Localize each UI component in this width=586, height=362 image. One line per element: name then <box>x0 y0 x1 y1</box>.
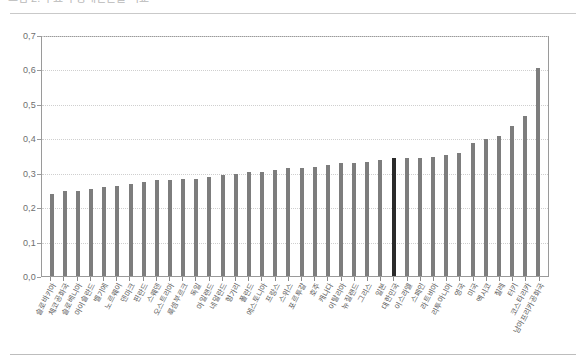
bar-slot <box>163 37 176 276</box>
bar-slot <box>505 37 518 276</box>
x-axis-label-slot: 뉴질랜드 <box>348 281 361 354</box>
x-axis-label-slot: 슬로베니아 <box>70 281 83 354</box>
x-axis-label-slot: 포르투갈 <box>295 281 308 354</box>
bar <box>273 170 277 276</box>
bar-slot <box>124 37 137 276</box>
bar-slot <box>361 37 374 276</box>
x-axis-label-slot: 아이슬란드 <box>84 281 97 354</box>
x-axis-label-slot: 라트비아 <box>427 281 440 354</box>
bar-slot <box>321 37 334 276</box>
bar-slot <box>203 37 216 276</box>
y-axis-tick-label: 0,5 <box>23 100 36 110</box>
bar-slot <box>453 37 466 276</box>
bar <box>431 157 435 277</box>
bar-slot <box>137 37 150 276</box>
x-axis-label-slot: 이탈리아 <box>334 281 347 354</box>
bar <box>181 179 185 276</box>
x-axis-label-slot: 아일랜드 <box>202 281 215 354</box>
bar <box>365 162 369 276</box>
bar <box>63 191 67 276</box>
bar-slot <box>348 37 361 276</box>
y-axis-tick-label: 0,7 <box>23 31 36 41</box>
x-axis-label-slot: 프랑스 <box>268 281 281 354</box>
x-axis-label-slot: 체코공화국 <box>57 281 70 354</box>
y-axis-tick-label: 0,0 <box>23 272 36 282</box>
y-axis: 0,00,10,20,30,40,50,60,7 <box>0 36 41 277</box>
bar <box>405 158 409 276</box>
bar <box>102 187 106 276</box>
x-axis-label-slot: 네덜란드 <box>216 281 229 354</box>
figure-caption-top: 그림 2. 주요국 상대빈곤율 비교 <box>8 0 238 5</box>
bar-slot <box>58 37 71 276</box>
bar-slot <box>229 37 242 276</box>
bar-slot <box>190 37 203 276</box>
x-axis-label-slot: 핀란드 <box>136 281 149 354</box>
bar <box>444 155 448 276</box>
bar-slot <box>295 37 308 276</box>
bar <box>300 168 304 276</box>
y-axis-tick-label: 0,1 <box>23 238 36 248</box>
x-axis-label-slot: 벨기에 <box>97 281 110 354</box>
bar-series <box>42 37 548 276</box>
x-axis-label-slot: 그리스 <box>361 281 374 354</box>
bar <box>457 153 461 276</box>
x-axis-label-slot: 호주 <box>308 281 321 354</box>
bar <box>260 172 264 276</box>
bar <box>221 175 225 276</box>
y-axis-tick-label: 0,6 <box>23 65 36 75</box>
bar <box>142 182 146 276</box>
x-axis-label-slot: 캐나다 <box>321 281 334 354</box>
x-axis-label-slot: 독일 <box>189 281 202 354</box>
bar-slot <box>242 37 255 276</box>
bar <box>168 180 172 276</box>
bar-slot <box>400 37 413 276</box>
bar <box>89 189 93 276</box>
x-axis-tick-label: 영국 <box>453 282 467 298</box>
bar <box>115 186 119 276</box>
top-divider <box>10 13 576 14</box>
y-axis-tick-label: 0,4 <box>23 134 36 144</box>
x-axis-label-slot: 멕시코 <box>480 281 493 354</box>
x-axis-label-slot: 노르웨이 <box>110 281 123 354</box>
bar <box>76 191 80 276</box>
x-axis-label-slot: 룩셈부르크 <box>176 281 189 354</box>
x-axis-label-slot: 헝가리 <box>229 281 242 354</box>
bar-slot <box>111 37 124 276</box>
y-axis-tick-label: 0,2 <box>23 203 36 213</box>
bar <box>155 180 159 276</box>
bar-slot <box>413 37 426 276</box>
bar-slot <box>374 37 387 276</box>
y-axis-tick-label: 0,3 <box>23 169 36 179</box>
bar-slot <box>532 37 545 276</box>
x-axis-label-slot: 스웨덴 <box>150 281 163 354</box>
bar-slot <box>269 37 282 276</box>
bar-slot <box>519 37 532 276</box>
bar <box>523 116 527 276</box>
x-axis-label-slot: 에스토니아 <box>255 281 268 354</box>
x-axis-label-slot: 남아프리카공화국 <box>533 281 546 354</box>
bar <box>471 143 475 276</box>
x-axis-tick-label: 멕시코 <box>476 282 493 304</box>
x-axis-label-slot: 오스트리아 <box>163 281 176 354</box>
bar-slot <box>71 37 84 276</box>
x-axis-tick-label: 칠레 <box>493 282 507 298</box>
x-axis-label-slot: 덴마크 <box>123 281 136 354</box>
bar-slot <box>492 37 505 276</box>
x-axis-label-slot: 스페인 <box>414 281 427 354</box>
bar-slot <box>440 37 453 276</box>
bar-slot <box>334 37 347 276</box>
bar-slot <box>84 37 97 276</box>
bar-slot <box>466 37 479 276</box>
x-axis-label-slot: 칠레 <box>493 281 506 354</box>
bar-slot <box>282 37 295 276</box>
bar <box>352 163 356 276</box>
x-axis-tick-label: 그리스 <box>358 282 375 304</box>
bar <box>247 172 251 276</box>
bar-slot <box>387 37 400 276</box>
bar-slot <box>45 37 58 276</box>
bar <box>536 68 540 276</box>
bar <box>484 139 488 276</box>
bar-slot <box>150 37 163 276</box>
x-axis-label-slot: 슬로바키아 <box>44 281 57 354</box>
x-axis-label-slot: 일본 <box>374 281 387 354</box>
